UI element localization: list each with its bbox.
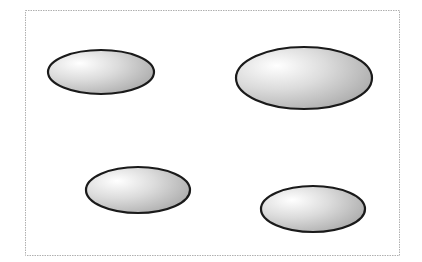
ellipse-bottom-right (261, 186, 365, 232)
diagram-canvas (0, 0, 422, 262)
ellipse-bottom-left (86, 167, 190, 213)
ellipse-top-right (236, 47, 372, 109)
ellipse-top-left (48, 50, 154, 94)
